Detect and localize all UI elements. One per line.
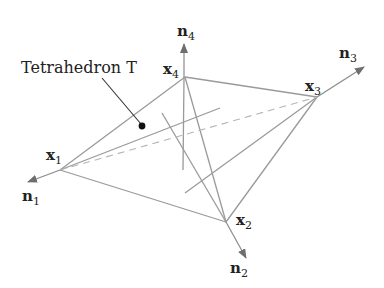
vertex-label-x2: x2: [236, 211, 252, 232]
tetrahedron-diagram: Tetrahedron T x1 x2 x3 x4 n1 n2 n3 n4: [0, 0, 384, 288]
edge-x4-x3: [185, 77, 317, 97]
normal-arrow-n3: [317, 67, 364, 97]
normal-arrow-n1: [28, 170, 60, 182]
tetrahedron-label: Tetrahedron T: [21, 58, 137, 77]
edge-x1-x4: [60, 77, 185, 170]
edge-x3-x2: [226, 97, 317, 222]
normal-label-n4: n4: [177, 22, 195, 43]
inner-line-x1: [60, 108, 220, 170]
label-pointer: [102, 78, 141, 124]
vertex-label-x1: x1: [46, 146, 62, 167]
normal-label-n1: n1: [22, 187, 40, 208]
edge-x1-x2: [60, 170, 226, 222]
n4-axis-inner: [183, 77, 184, 170]
normal-label-n2: n2: [230, 259, 248, 280]
interior-point-dot: [139, 123, 146, 130]
vertex-label-x3: x3: [305, 77, 321, 98]
normal-label-n3: n3: [339, 44, 357, 65]
inner-line-x2: [162, 113, 226, 222]
vertex-label-x4: x4: [163, 60, 179, 81]
edge-x4-x2: [185, 77, 226, 222]
tetrahedron-edges: [60, 77, 317, 222]
